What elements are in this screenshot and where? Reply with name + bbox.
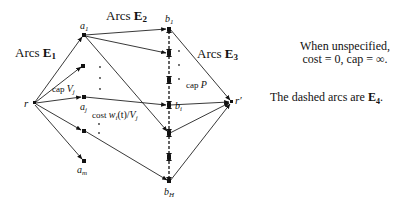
edge-annotations: cap Vj cost wi(t)/Vj cap P: [52, 79, 207, 122]
arc-group-labels: Arcs E1 Arcs E2 Arcs E3: [15, 8, 238, 62]
dashed-note-period: .: [380, 90, 383, 104]
label-arcs-e1: Arcs E1: [15, 45, 56, 61]
dashed-note-text: The dashed arcs are: [270, 90, 368, 104]
node-r: [33, 101, 36, 104]
node-bi: [167, 103, 171, 107]
label-cost: cost wi(t)/Vj: [92, 109, 138, 122]
node-bH: [167, 179, 171, 183]
label-r: r: [24, 97, 29, 109]
label-a1: a1: [80, 20, 89, 33]
label-cap-p: cap P: [186, 79, 207, 90]
node-b5: [167, 155, 171, 159]
dashed-arcs-note: The dashed arcs are E4.: [270, 91, 383, 108]
label-cap-vj: cap Vj: [52, 83, 75, 96]
label-bH: bH: [164, 186, 175, 199]
node-b1: [167, 27, 171, 31]
default-note-line2: cost = 0, cap = ∞.: [281, 53, 409, 66]
node-b4: [167, 131, 171, 135]
label-arcs-e3: Arcs E3: [197, 46, 238, 62]
node-b3: [167, 78, 171, 82]
label-arcs-e2: Arcs E2: [106, 8, 147, 24]
default-values-note: When unspecified, cost = 0, cap = ∞.: [281, 40, 409, 66]
node-labels: r a1 aj am b1 bi bH r′: [24, 13, 242, 199]
arcs-e2: [85, 29, 167, 180]
dashed-note-e: E: [368, 90, 376, 104]
node-ak: [82, 129, 86, 133]
node-a1: [82, 33, 86, 37]
node-am: [82, 159, 86, 163]
label-aj: aj: [80, 101, 87, 114]
label-b1: b1: [165, 13, 174, 26]
label-am: am: [77, 164, 87, 177]
label-rprime: r′: [235, 94, 242, 106]
node-aj: [82, 95, 86, 99]
node-rprime: [230, 100, 233, 103]
label-bi: bi: [175, 100, 182, 113]
node-a2: [81, 64, 85, 68]
node-b2: [167, 51, 171, 55]
ellipsis-dots: [98, 50, 180, 134]
